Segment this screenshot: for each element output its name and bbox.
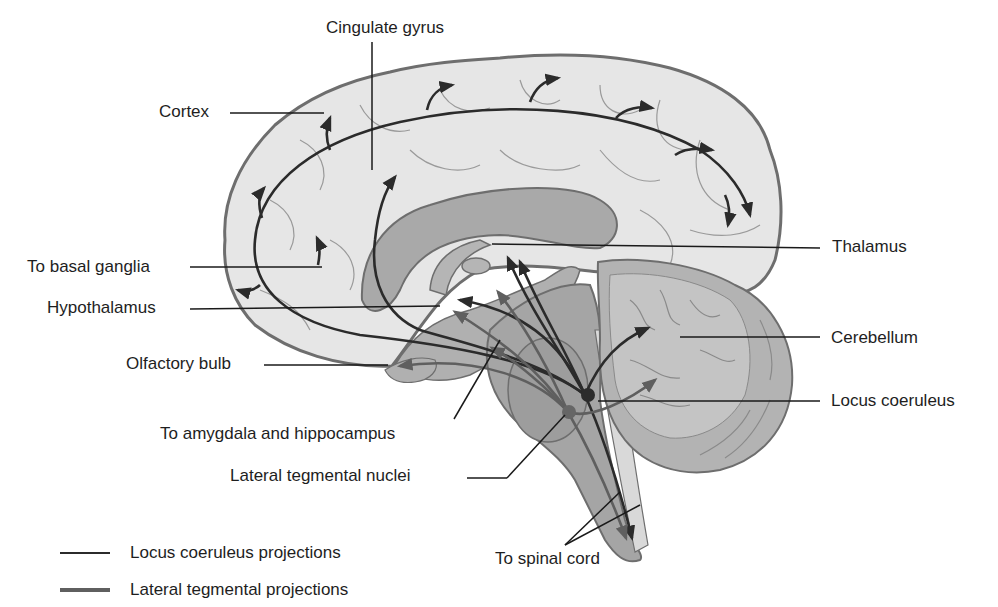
locus-coeruleus-dot [581, 388, 595, 402]
label-hypothalamus: Hypothalamus [47, 298, 156, 318]
label-cingulate-gyrus: Cingulate gyrus [326, 18, 444, 38]
label-olfactory-bulb: Olfactory bulb [126, 354, 231, 374]
label-cortex: Cortex [159, 102, 209, 122]
legend-item-locus-coeruleus: Locus coeruleus projections [60, 543, 341, 563]
legend-label: Lateral tegmental projections [130, 580, 348, 600]
label-to-amygdala-hippocampus: To amygdala and hippocampus [160, 424, 395, 444]
label-cerebellum: Cerebellum [831, 328, 918, 348]
legend-label: Locus coeruleus projections [130, 543, 341, 563]
legend-swatch-gray-line [60, 588, 110, 592]
legend-item-lateral-tegmental: Lateral tegmental projections [60, 580, 348, 600]
label-lateral-tegmental-nuclei: Lateral tegmental nuclei [230, 466, 411, 486]
legend-swatch-dark-line [60, 552, 110, 554]
label-to-basal-ganglia: To basal ganglia [27, 257, 150, 277]
label-to-spinal-cord: To spinal cord [495, 549, 600, 569]
thalamus-shape [462, 258, 490, 274]
label-thalamus: Thalamus [832, 237, 907, 257]
label-locus-coeruleus: Locus coeruleus [831, 391, 955, 411]
